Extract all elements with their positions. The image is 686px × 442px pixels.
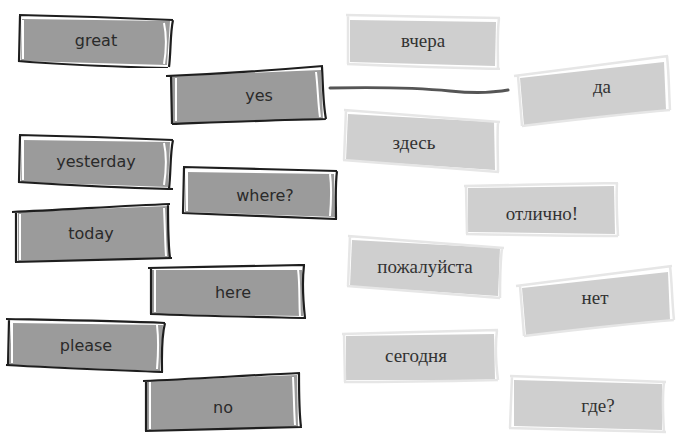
english-card-yesterday[interactable]: yesterday (16, 132, 176, 190)
russian-card-vchera[interactable]: вчера (344, 12, 502, 70)
english-card-where[interactable]: where? (180, 164, 340, 220)
card-label: great (75, 31, 117, 50)
russian-card-zdes[interactable]: здесь (342, 108, 502, 174)
card-label: отлично! (506, 203, 578, 225)
card-label: yes (245, 86, 273, 105)
card-label: пожалуйста (377, 256, 472, 278)
card-label: here (215, 283, 251, 302)
english-card-here[interactable]: here (148, 264, 308, 320)
card-label: today (68, 224, 114, 243)
russian-card-gde[interactable]: где? (508, 374, 668, 434)
card-label: yesterday (56, 152, 136, 171)
english-card-today[interactable]: today (10, 202, 172, 264)
card-label: no (213, 398, 233, 417)
english-card-no[interactable]: no (143, 371, 303, 433)
card-label: where? (236, 186, 294, 205)
russian-card-net[interactable]: нет (514, 262, 676, 338)
english-card-please[interactable]: please (5, 317, 167, 373)
english-card-yes[interactable]: yes (166, 64, 328, 126)
card-label: please (60, 336, 112, 355)
russian-card-da[interactable]: да (512, 54, 672, 128)
card-label: здесь (393, 132, 436, 154)
russian-card-segodnya[interactable]: сегодня (342, 328, 500, 384)
english-card-great[interactable]: great (16, 12, 176, 68)
russian-card-pozhaluysta[interactable]: пожалуйста (344, 234, 506, 300)
card-label: где? (581, 395, 614, 417)
card-label: сегодня (385, 345, 447, 367)
card-label: вчера (401, 30, 445, 52)
russian-card-otlichno[interactable]: отлично! (464, 182, 620, 238)
card-label: да (593, 76, 611, 98)
card-label: нет (582, 287, 609, 309)
